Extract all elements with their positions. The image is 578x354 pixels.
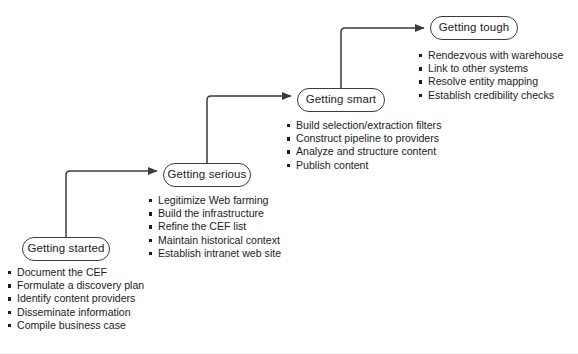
square-bullet-icon [8,271,11,274]
task-text: Legitimize Web farming [158,194,269,206]
list-item: Publish content [287,159,441,172]
list-item: Refine the CEF list [149,220,281,233]
square-bullet-icon [287,124,290,127]
list-item: Establish credibility checks [419,89,563,102]
task-text: Analyze and structure content [296,145,436,157]
task-list-getting-started: Document the CEF Formulate a discovery p… [8,266,144,332]
connector-serious-to-smart [207,96,291,163]
square-bullet-icon [419,94,422,97]
square-bullet-icon [419,80,422,83]
square-bullet-icon [287,137,290,140]
list-item: Construct pipeline to providers [287,132,441,145]
task-text: Maintain historical context [158,234,280,246]
task-text: Formulate a discovery plan [17,279,144,291]
square-bullet-icon [419,54,422,57]
stage-label-getting-serious: Getting serious [168,169,247,181]
task-text: Publish content [296,159,368,171]
connector-started-to-serious [66,171,157,237]
square-bullet-icon [8,297,11,300]
task-text: Link to other systems [428,62,528,74]
stage-box-getting-smart[interactable]: Getting smart [297,88,385,112]
task-text: Establish intranet web site [158,247,281,259]
square-bullet-icon [419,67,422,70]
list-item: Build the infrastructure [149,207,281,220]
stage-label-getting-tough: Getting tough [439,22,509,34]
connector-smart-to-tough [341,28,424,88]
square-bullet-icon [8,284,11,287]
stage-label-getting-smart: Getting smart [306,94,376,106]
task-text: Build the infrastructure [158,207,264,219]
task-list-getting-serious: Legitimize Web farming Build the infrast… [149,194,281,260]
task-text: Construct pipeline to providers [296,132,439,144]
list-item: Disseminate information [8,306,144,319]
task-text: Resolve entity mapping [428,75,538,87]
stage-label-getting-started: Getting started [28,243,105,255]
list-item: Establish intranet web site [149,247,281,260]
task-text: Disseminate information [17,306,131,318]
list-item: Resolve entity mapping [419,75,563,88]
list-item: Compile business case [8,319,144,332]
process-diagram: Getting started Document the CEF Formula… [0,0,578,354]
stage-box-getting-serious[interactable]: Getting serious [163,163,251,187]
task-text: Document the CEF [17,266,107,278]
list-item: Legitimize Web farming [149,194,281,207]
square-bullet-icon [149,239,152,242]
task-text: Identify content providers [17,292,135,304]
list-item: Document the CEF [8,266,144,279]
square-bullet-icon [149,199,152,202]
list-item: Maintain historical context [149,234,281,247]
list-item: Link to other systems [419,62,563,75]
task-text: Build selection/extraction filters [296,119,441,131]
task-text: Rendezvous with warehouse [428,49,563,61]
list-item: Analyze and structure content [287,145,441,158]
square-bullet-icon [8,311,11,314]
task-list-getting-tough: Rendezvous with warehouse Link to other … [419,49,563,102]
list-item: Formulate a discovery plan [8,279,144,292]
square-bullet-icon [149,252,152,255]
square-bullet-icon [287,164,290,167]
list-item: Rendezvous with warehouse [419,49,563,62]
list-item: Build selection/extraction filters [287,119,441,132]
task-list-getting-smart: Build selection/extraction filters Const… [287,119,441,172]
square-bullet-icon [149,225,152,228]
task-text: Compile business case [17,319,126,331]
square-bullet-icon [287,150,290,153]
task-text: Establish credibility checks [428,89,554,101]
square-bullet-icon [149,212,152,215]
stage-box-getting-tough[interactable]: Getting tough [430,16,518,40]
square-bullet-icon [8,324,11,327]
list-item: Identify content providers [8,292,144,305]
stage-box-getting-started[interactable]: Getting started [22,237,110,261]
task-text: Refine the CEF list [158,220,246,232]
